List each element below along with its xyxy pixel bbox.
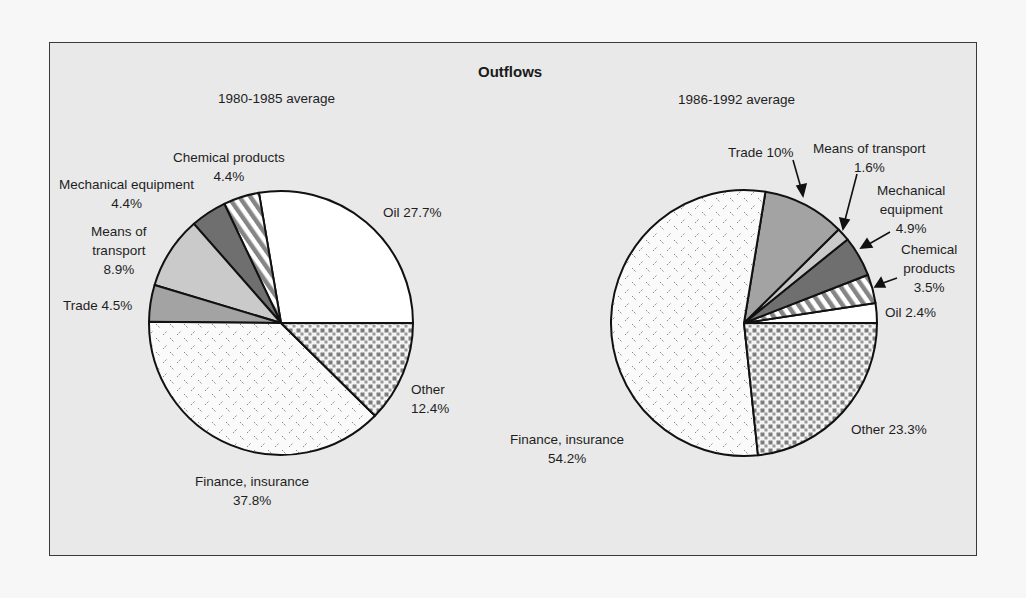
- arrow-trade: [793, 160, 806, 196]
- right-label-trade: Trade 10%: [728, 143, 794, 162]
- left-label-transport: Means of transport 8.9%: [91, 222, 147, 279]
- left-label-oil: Oil 27.7%: [383, 203, 442, 222]
- left-subtitle: 1980-1985 average: [218, 91, 335, 106]
- slice-finance-insurance: [611, 190, 765, 456]
- pie-1980-1985: [149, 191, 413, 455]
- right-label-finance: Finance, insurance 54.2%: [510, 430, 624, 468]
- right-label-mechanical: Mechanical equipment 4.9%: [877, 181, 945, 238]
- arrow-means-of-transport: [840, 174, 857, 229]
- pie-1986-1992: [611, 190, 877, 456]
- arrow-chemical-products: [875, 278, 897, 287]
- chart-title: Outflows: [478, 63, 542, 80]
- left-label-mechanical: Mechanical equipment 4.4%: [59, 175, 194, 213]
- left-label-trade: Trade 4.5%: [63, 296, 132, 315]
- right-label-chemical: Chemical products 3.5%: [901, 240, 957, 297]
- pie-charts-canvas: [0, 0, 1026, 598]
- left-label-other: Other 12.4%: [411, 380, 449, 418]
- right-label-oil: Oil 2.4%: [885, 303, 936, 322]
- left-label-finance: Finance, insurance 37.8%: [195, 472, 309, 510]
- right-label-means-of-transport: Means of transport 1.6%: [813, 139, 926, 177]
- right-label-other: Other 23.3%: [851, 420, 927, 439]
- right-subtitle: 1986-1992 average: [678, 92, 795, 107]
